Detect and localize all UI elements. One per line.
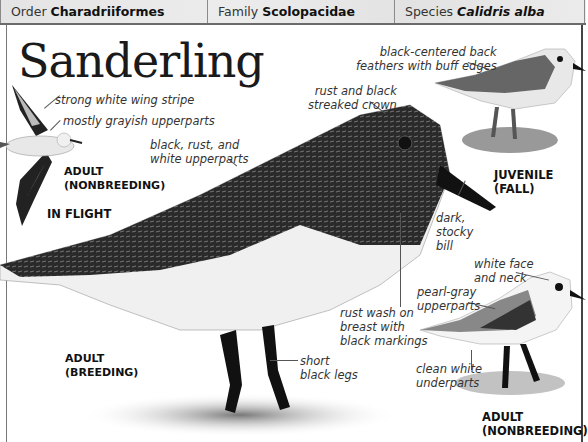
- label-bill: dark,stockybill: [436, 211, 473, 253]
- label-breast: rust wash onbreast withblack markings: [340, 306, 428, 348]
- species-value: Calidris alba: [457, 4, 544, 19]
- label-pearl-gray: pearl-grayupperparts: [417, 285, 480, 313]
- family-value: Scolopacidae: [262, 4, 355, 19]
- order-cell: Order Charadriiformes: [0, 0, 208, 23]
- taxonomy-header: Order Charadriiformes Family Scolopacida…: [0, 0, 586, 25]
- label-back-feathers: black-centered backfeathers with buff ed…: [356, 45, 497, 73]
- leader-line: [400, 213, 401, 307]
- label-breeding-upperparts: black, rust, andwhite upperparts: [150, 138, 248, 166]
- caption-breeding: ADULT(BREEDING): [65, 352, 138, 380]
- label-crown: rust and blackstreaked crown: [308, 84, 397, 112]
- family-cell: Family Scolopacidae: [208, 0, 395, 23]
- caption-nonbreeding: ADULT(NONBREEDING): [482, 410, 588, 438]
- caption-juvenile: JUVENILE(FALL): [494, 168, 553, 196]
- species-cell: Species Calidris alba: [395, 0, 585, 23]
- order-value: Charadriiformes: [51, 4, 165, 19]
- label-white-face: white faceand neck: [474, 257, 534, 285]
- label-legs: shortblack legs: [300, 354, 358, 382]
- label-underparts: clean whiteunderparts: [416, 362, 482, 390]
- leader-line: [270, 360, 298, 361]
